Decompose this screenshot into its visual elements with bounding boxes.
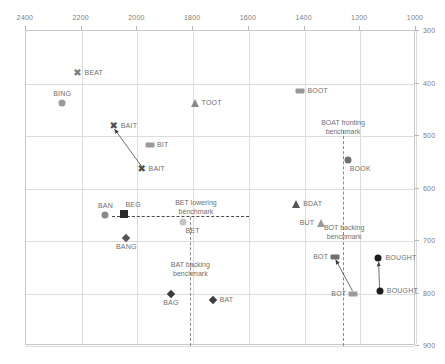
y-axis-label: 900 xyxy=(423,342,435,349)
data-point-label-bought: BOUGHT xyxy=(385,254,416,261)
y-axis-label: 400 xyxy=(423,79,435,86)
benchmark-text-line: BET lowering xyxy=(175,198,217,207)
data-point-marker-bing[interactable] xyxy=(59,100,66,107)
gridline-vertical xyxy=(82,31,83,344)
benchmark-text-line: BOAT fronting xyxy=(321,118,365,127)
y-axis-label: 800 xyxy=(423,289,435,296)
x-axis-tick xyxy=(248,26,249,30)
x-axis-label: 2200 xyxy=(73,14,89,21)
bot-transition-arrow xyxy=(336,260,353,291)
x-axis-label: 1800 xyxy=(184,14,200,21)
data-point-marker-bat[interactable] xyxy=(208,296,216,304)
x-axis-label: 2000 xyxy=(128,14,144,21)
data-point-marker-boot[interactable] xyxy=(296,89,305,94)
x-axis-tick xyxy=(304,26,305,30)
bat-backing-benchmark-text: BAT backingbenchmark xyxy=(171,260,210,278)
benchmark-text-line: benchmark xyxy=(175,207,217,216)
x-axis-tick xyxy=(25,26,26,30)
gridline-horizontal xyxy=(26,346,414,347)
x-axis-label: 1000 xyxy=(407,14,423,21)
data-point-label-bang: BANG xyxy=(116,243,137,250)
boat-fronting-benchmark-text: BOAT frontingbenchmark xyxy=(321,118,365,136)
x-axis-label: 1400 xyxy=(295,14,311,21)
data-point-marker-toot[interactable] xyxy=(191,99,199,107)
data-point-label-bait: BAIT xyxy=(121,122,137,129)
data-point-marker-bdat[interactable] xyxy=(292,200,300,208)
benchmark-text-line: benchmark xyxy=(324,232,364,241)
gridline-vertical xyxy=(249,31,250,344)
bought-transition-arrow xyxy=(379,262,380,288)
data-point-marker-bought[interactable] xyxy=(376,287,383,294)
benchmark-text-line: BOT backing xyxy=(324,223,364,232)
gridline-horizontal xyxy=(26,241,414,242)
x-axis-label: 1200 xyxy=(351,14,367,21)
bot-backing-benchmark-text: BOT backingbenchmark xyxy=(324,223,364,241)
data-point-label-bot: BOT xyxy=(331,290,346,297)
data-point-marker-bait[interactable]: ✖ xyxy=(110,121,118,131)
y-axis-tick xyxy=(415,188,419,189)
data-point-label-bdat: BDAT xyxy=(303,200,322,207)
benchmark-text-line: benchmark xyxy=(321,127,365,136)
x-axis-tick xyxy=(359,26,360,30)
gridline-vertical xyxy=(360,31,361,344)
data-point-marker-beg[interactable] xyxy=(120,210,128,218)
gridline-vertical xyxy=(305,31,306,344)
bet-lowering-benchmark-text: BET loweringbenchmark xyxy=(175,198,217,216)
gridline-vertical xyxy=(137,31,138,344)
data-point-marker-but[interactable] xyxy=(317,219,325,227)
x-axis-tick xyxy=(136,26,137,30)
benchmark-text-line: BAT backing xyxy=(171,260,210,269)
data-point-marker-bet[interactable] xyxy=(180,218,187,225)
data-point-marker-beat[interactable]: ✖ xyxy=(73,68,81,78)
data-point-label-bing: BING xyxy=(53,90,71,97)
gridline-horizontal xyxy=(26,189,414,190)
data-point-marker-bait[interactable]: ✖ xyxy=(137,164,145,174)
data-point-label-book: BOOK xyxy=(350,165,371,172)
gridline-horizontal xyxy=(26,84,414,85)
data-point-marker-bag[interactable] xyxy=(167,289,175,297)
data-point-label-boot: BOOT xyxy=(307,87,328,94)
y-axis-label: 300 xyxy=(423,27,435,34)
data-point-label-bot: BOT xyxy=(313,253,328,260)
data-point-marker-book[interactable] xyxy=(344,156,351,163)
data-point-marker-bot[interactable] xyxy=(349,291,358,296)
gridline-vertical xyxy=(193,31,194,344)
data-point-marker-bought[interactable] xyxy=(375,255,382,262)
y-axis-tick xyxy=(415,345,419,346)
data-point-label-beg: BEG xyxy=(126,201,141,208)
y-axis-tick xyxy=(415,83,419,84)
y-axis-label: 600 xyxy=(423,184,435,191)
y-axis-tick xyxy=(415,135,419,136)
x-axis-label: 1600 xyxy=(240,14,256,21)
y-axis-tick xyxy=(415,30,419,31)
scatter-chart-screenshot: BOAT frontingbenchmarkBET loweringbenchm… xyxy=(0,0,445,364)
gridline-horizontal xyxy=(26,136,414,137)
data-point-label-bought: BOUGHT xyxy=(387,287,418,294)
data-point-marker-ban[interactable] xyxy=(102,211,109,218)
y-axis-tick xyxy=(415,293,419,294)
data-point-label-bit: BIT xyxy=(157,141,169,148)
x-axis-label: 2400 xyxy=(17,14,33,21)
y-axis-label: 700 xyxy=(423,237,435,244)
y-axis-label: 500 xyxy=(423,132,435,139)
data-point-marker-bot[interactable] xyxy=(331,254,340,259)
data-point-label-but: BUT xyxy=(300,219,315,226)
data-point-label-bat: BAT xyxy=(220,296,234,303)
x-axis-tick xyxy=(192,26,193,30)
y-axis-tick xyxy=(415,240,419,241)
data-point-label-bait: BAIT xyxy=(149,165,165,172)
bet-lowering-benchmark-line xyxy=(112,216,249,217)
data-point-label-bet: BET xyxy=(185,227,199,234)
data-point-label-bag: BAG xyxy=(163,299,178,306)
data-point-label-toot: TOOT xyxy=(202,99,222,106)
data-point-label-ban: BAN xyxy=(98,202,113,209)
bat-backing-benchmark-line xyxy=(190,217,191,346)
data-point-label-beat: BEAT xyxy=(85,69,104,76)
plot-area: BOAT frontingbenchmarkBET loweringbenchm… xyxy=(25,30,415,345)
x-axis-tick xyxy=(81,26,82,30)
data-point-marker-bit[interactable] xyxy=(145,143,154,148)
benchmark-text-line: benchmark xyxy=(171,269,210,278)
